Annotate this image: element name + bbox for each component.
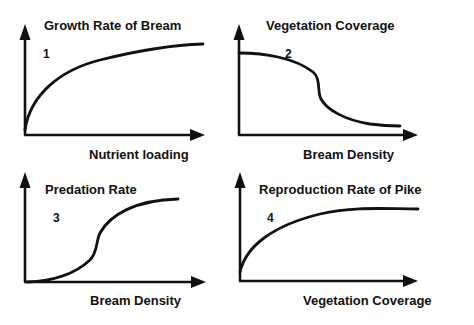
x-axis-label: Bream Density [303, 147, 395, 162]
x-axis-arrow-icon [403, 129, 418, 141]
diagram-canvas: Growth Rate of Bream 1 Nutrient loading … [0, 0, 474, 325]
y-axis-arrow-icon [235, 172, 246, 188]
panel-number: 4 [267, 211, 274, 225]
curve-vegetation-coverage [239, 53, 400, 126]
panel-2: Vegetation Coverage 2 Bream Density [234, 18, 419, 162]
panel-number: 3 [53, 211, 60, 225]
panel-1: Growth Rate of Bream 1 Nutrient loading [20, 18, 206, 162]
y-axis-label: Predation Rate [45, 182, 137, 197]
panel-4: Reproduction Rate of Pike 4 Vegetation C… [235, 172, 432, 308]
x-axis-arrow-icon [403, 275, 418, 287]
x-axis-label: Vegetation Coverage [303, 293, 432, 308]
x-axis-arrow-icon [190, 129, 205, 141]
y-axis-arrow-icon [20, 172, 31, 188]
y-axis-label: Vegetation Coverage [266, 18, 395, 33]
panel-number: 2 [285, 47, 292, 61]
y-axis-arrow-icon [20, 24, 31, 40]
panel-number: 1 [43, 47, 50, 61]
panel-3: Predation Rate 3 Bream Density [20, 172, 207, 308]
y-axis-label: Growth Rate of Bream [44, 18, 181, 33]
y-axis-label: Reproduction Rate of Pike [259, 182, 422, 197]
x-axis-label: Bream Density [90, 293, 182, 308]
x-axis-label: Nutrient loading [89, 147, 189, 162]
x-axis-arrow-icon [191, 276, 206, 288]
y-axis-arrow-icon [234, 24, 245, 40]
curve-predation-rate [27, 199, 178, 282]
curve-growth-rate [25, 44, 203, 130]
